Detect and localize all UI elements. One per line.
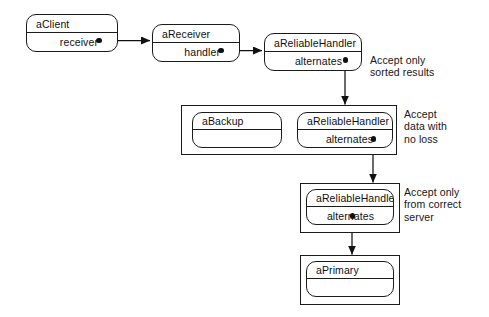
object-aclient[interactable]: aClient receiver [26, 14, 118, 52]
object-areliablehandler-1[interactable]: aReliableHandler alternates [264, 33, 362, 71]
object-abackup[interactable]: aBackup [192, 112, 282, 148]
association-dot-aclient-receiver [96, 38, 102, 44]
object-aprimary-name: aPrimary [307, 262, 393, 279]
object-areceiver-attribute: handler [153, 43, 239, 61]
object-areliablehandler-3-name: aReliableHandler [307, 190, 393, 207]
object-areceiver[interactable]: aReceiver handler [152, 24, 240, 62]
note-accept-only-from-correct-server: Accept only from correct server [404, 186, 489, 223]
object-areliablehandler-2-name: aReliableHandler [298, 113, 392, 130]
note-accept-only-sorted-results: Accept only sorted results [370, 54, 488, 79]
note-accept-data-with-no-loss: Accept data with no loss [404, 108, 489, 145]
association-dot-handler1-alternates [343, 57, 349, 63]
association-dot-areceiver-handler [218, 48, 224, 54]
object-aprimary-attribute [307, 279, 393, 296]
object-aclient-name: aClient [27, 15, 117, 33]
object-areliablehandler-2[interactable]: aReliableHandler alternates [297, 112, 393, 148]
object-abackup-name: aBackup [193, 113, 281, 130]
object-areceiver-name: aReceiver [153, 25, 239, 43]
object-aclient-attribute: receiver [27, 33, 117, 51]
object-aprimary[interactable]: aPrimary [306, 261, 394, 297]
association-dot-handler3-alternates [350, 213, 356, 219]
object-areliablehandler-2-attribute: alternates [298, 130, 392, 147]
object-areliablehandler-3[interactable]: aReliableHandler alternates [306, 189, 394, 225]
association-dot-handler2-alternates [371, 136, 377, 142]
object-abackup-attribute [193, 130, 281, 147]
object-diagram: aClient receiver aReceiver handler aReli… [0, 0, 489, 317]
object-areliablehandler-1-name: aReliableHandler [265, 34, 361, 52]
